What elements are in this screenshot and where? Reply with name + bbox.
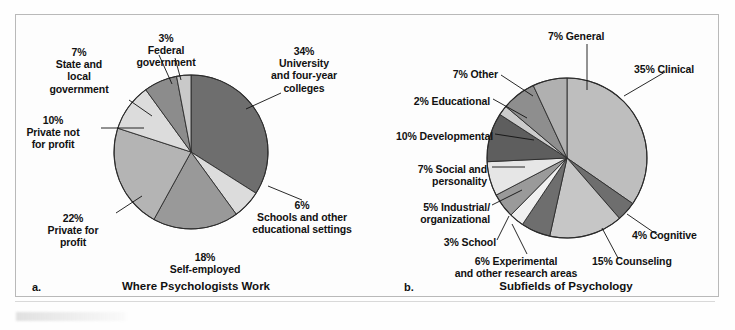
label-educational: 2% Educational xyxy=(388,95,490,107)
leader-line xyxy=(602,228,618,258)
label-clinical: 35% Clinical xyxy=(634,63,728,75)
leader-line xyxy=(497,216,509,240)
label-general: 7% General xyxy=(548,30,638,42)
leader-line xyxy=(624,72,665,96)
leader-line xyxy=(512,224,527,254)
label-developmental: 10% Developmental xyxy=(381,130,493,142)
label-industrial-organizational: 5% Industrial/ organizational xyxy=(385,201,490,225)
figure-page: 7% State and local government 3% Federal… xyxy=(0,0,735,330)
panel-letter-b: b. xyxy=(404,281,414,293)
label-social-personality: 7% Social and personality xyxy=(387,163,487,187)
leader-line xyxy=(501,75,533,96)
label-other: 7% Other xyxy=(420,68,498,80)
label-experimental: 6% Experimental and other research areas xyxy=(433,255,599,279)
label-school: 3% School xyxy=(410,236,496,248)
label-counseling: 15% Counseling xyxy=(592,255,702,267)
label-cognitive: 4% Cognitive xyxy=(632,229,728,241)
panel-title-b: Subfields of Psychology xyxy=(466,280,666,292)
